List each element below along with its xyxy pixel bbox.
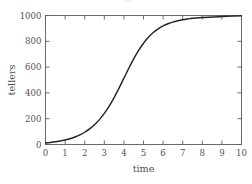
- y-tick-label: 400: [25, 88, 41, 98]
- x-tick-label: 3: [102, 148, 107, 158]
- x-axis-title: time: [133, 163, 155, 174]
- y-axis-ticks: [46, 16, 242, 145]
- x-axis-tick-labels: 012345678910: [43, 148, 247, 158]
- y-tick-label: 800: [25, 36, 41, 46]
- y-axis-tick-labels: 02004006008001000: [20, 11, 42, 150]
- x-tick-label: 7: [180, 148, 185, 158]
- x-tick-label: 4: [121, 148, 127, 158]
- x-tick-label: 2: [82, 148, 87, 158]
- y-tick-label: 1000: [20, 11, 42, 21]
- y-tick-label: 0: [36, 140, 41, 150]
- top-edge-artifact: [124, 0, 133, 2]
- x-tick-label: 9: [219, 148, 224, 158]
- logistic-growth-chart: 012345678910 02004006008001000 time tell…: [0, 0, 252, 184]
- y-tick-label: 200: [25, 114, 41, 124]
- x-tick-label: 0: [43, 148, 48, 158]
- figure-container: 012345678910 02004006008001000 time tell…: [0, 0, 252, 184]
- y-axis-title: tellers: [6, 64, 17, 95]
- x-tick-label: 8: [200, 148, 205, 158]
- x-tick-label: 1: [62, 148, 67, 158]
- tellers-logistic-curve: [46, 16, 242, 143]
- x-tick-label: 5: [141, 148, 146, 158]
- x-tick-label: 6: [160, 148, 165, 158]
- plot-frame: [46, 16, 242, 145]
- y-tick-label: 600: [25, 62, 41, 72]
- x-axis-ticks: [46, 16, 242, 145]
- x-tick-label: 10: [236, 148, 247, 158]
